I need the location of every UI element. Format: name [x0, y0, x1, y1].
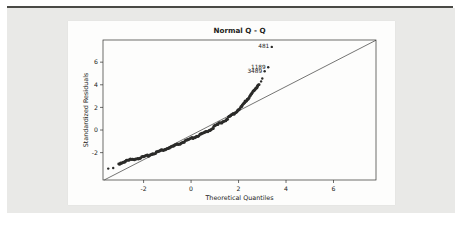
scatter-point [260, 80, 262, 82]
qq-plot-svg: Normal Q - Q-20246Theoretical Quantiles-… [68, 21, 395, 205]
chart-card: Normal Q - Q-20246Theoretical Quantiles-… [68, 21, 395, 205]
y-tick-label: 4 [94, 81, 98, 88]
x-tick-label: 0 [189, 185, 193, 192]
x-tick-label: -2 [141, 185, 147, 192]
chart-title: Normal Q - Q [213, 26, 265, 35]
scatter-points [117, 83, 260, 166]
y-tick-label: 0 [94, 126, 98, 133]
y-axis: -20246Standardized Residuals [82, 58, 103, 155]
scatter-point [107, 167, 109, 169]
y-axis-title: Standardized Residuals [82, 72, 90, 147]
y-tick-label: -2 [92, 149, 98, 156]
outlier-point [263, 70, 265, 72]
outlier-point [267, 66, 269, 68]
outlier-point [271, 46, 273, 48]
outlier-label: 3489 [247, 68, 262, 74]
x-axis: -20246Theoretical Quantiles [141, 180, 336, 202]
scatter-point [258, 83, 261, 86]
scatter-point [261, 77, 263, 79]
x-tick-label: 4 [284, 185, 288, 192]
sparse-points [107, 77, 263, 169]
outlier-points: 48111893489 [247, 43, 273, 73]
x-tick-label: 6 [332, 185, 336, 192]
x-tick-label: 2 [237, 185, 241, 192]
y-tick-label: 2 [94, 104, 98, 111]
outlier-label: 481 [258, 43, 269, 49]
content-panel: Normal Q - Q-20246Theoretical Quantiles-… [7, 8, 455, 213]
x-axis-title: Theoretical Quantiles [204, 194, 274, 202]
scatter-point [112, 167, 114, 169]
y-tick-label: 6 [94, 58, 98, 65]
page: Normal Q - Q-20246Theoretical Quantiles-… [0, 0, 463, 227]
